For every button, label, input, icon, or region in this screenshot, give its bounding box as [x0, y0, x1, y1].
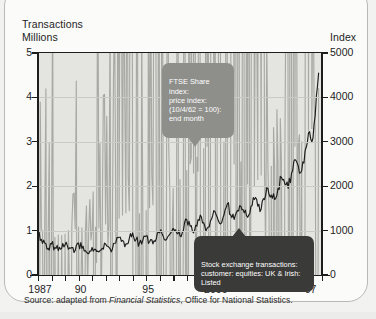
right-axis-tick-mark	[323, 186, 328, 187]
figure-container: Transactions Millions Index 012345 01000…	[0, 0, 376, 319]
source-suffix: , Office for National Statistics.	[180, 295, 293, 305]
right-axis-tick-label: 5000	[330, 46, 364, 58]
x-axis-tick-mark	[79, 276, 80, 281]
left-axis-title-line1: Transactions	[22, 18, 83, 30]
left-axis-tick-mark	[32, 141, 37, 142]
source-prefix: Source: adapted from	[24, 295, 109, 305]
x-axis-tick-mark	[119, 276, 120, 281]
left-axis-tick-label: 3	[6, 135, 32, 147]
x-axis-tick-mark	[187, 276, 188, 281]
callout-transactions: Stock exchange transactions: customer: e…	[194, 236, 314, 292]
callout-ftse-pointer	[188, 137, 202, 147]
x-axis-tick-mark	[133, 276, 134, 281]
x-axis-tick-label: 90	[75, 283, 87, 295]
callout-ftse-text: FTSE Share index: price index: (10/4/62 …	[169, 77, 221, 123]
left-axis-tick-label: 0	[6, 268, 32, 280]
right-axis-tick-mark	[323, 97, 328, 98]
x-axis-tick-mark	[52, 276, 53, 281]
left-axis-tick-label: 5	[6, 46, 32, 58]
source-note: Source: adapted from Financial Statistic…	[24, 295, 293, 305]
right-axis-tick-label: 2000	[330, 179, 364, 191]
x-axis-tick-mark	[173, 276, 174, 281]
gridline	[38, 186, 322, 187]
left-axis-tick-mark	[32, 274, 37, 275]
plot-top-rule	[38, 52, 322, 53]
right-axis-tick-mark	[323, 141, 328, 142]
left-axis-tick-mark	[32, 52, 37, 53]
right-axis-tick-label: 1000	[330, 224, 364, 236]
x-axis-tick-mark	[38, 276, 39, 281]
x-axis-tick-mark	[65, 276, 66, 281]
x-axis-tick-mark	[146, 276, 147, 281]
right-axis-tick-mark	[323, 230, 328, 231]
right-axis-title: Index	[330, 31, 356, 43]
right-axis-tick-label: 3000	[330, 135, 364, 147]
x-axis-tick-mark	[322, 276, 323, 281]
right-axis-tick-mark	[323, 52, 328, 53]
left-axis-line	[37, 52, 39, 276]
x-axis-tick-label: 95	[142, 283, 154, 295]
x-axis-tick-mark	[160, 276, 161, 281]
callout-transactions-text: Stock exchange transactions: customer: e…	[201, 260, 300, 288]
right-axis-line	[321, 52, 323, 276]
source-publication: Financial Statistics	[109, 295, 180, 305]
x-axis-tick-mark	[92, 276, 93, 281]
x-axis-tick-label: 1987	[28, 283, 51, 295]
card-bottom-fade	[0, 312, 376, 319]
left-axis-tick-mark	[32, 186, 37, 187]
left-axis-tick-mark	[32, 97, 37, 98]
right-axis-tick-label: 0	[330, 268, 364, 280]
left-axis-tick-mark	[32, 230, 37, 231]
gridline	[38, 231, 322, 232]
callout-transactions-pointer	[232, 228, 246, 237]
x-axis-tick-mark	[106, 276, 107, 281]
left-axis-title-line2: Millions	[22, 31, 58, 43]
gridline	[38, 142, 322, 143]
left-axis-tick-label: 4	[6, 90, 32, 102]
right-axis-tick-label: 4000	[330, 90, 364, 102]
left-axis-tick-label: 2	[6, 179, 32, 191]
left-axis-tick-label: 1	[6, 224, 32, 236]
callout-ftse: FTSE Share index: price index: (10/4/62 …	[162, 63, 234, 138]
